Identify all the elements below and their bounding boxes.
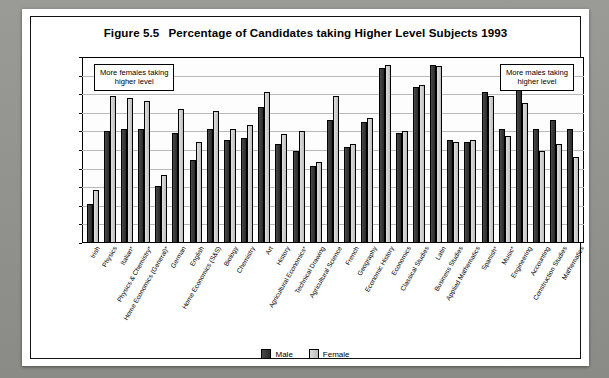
chart-legend: Male Female (22, 349, 589, 359)
bar-group (204, 57, 221, 243)
bar-group (462, 57, 479, 243)
bar-female (299, 131, 305, 243)
bar-female (247, 125, 253, 243)
bar-group (307, 57, 324, 243)
x-axis-tick-label: Italian* (119, 245, 135, 266)
bar-group (342, 57, 359, 243)
bar-female (110, 96, 116, 243)
bar-female (127, 98, 133, 243)
bar-group (324, 57, 341, 243)
legend-item-male: Male (261, 349, 292, 359)
x-axis-tick-label: English (188, 245, 205, 267)
bar-female (213, 111, 219, 243)
legend-label-female: Female (323, 350, 350, 359)
bar-female (573, 157, 579, 243)
legend-item-female: Female (309, 349, 350, 359)
x-axis-labels: IrishPhysicsItalian*Physics & Chemistry*… (82, 245, 584, 345)
bar-group (221, 57, 238, 243)
x-axis-tick-label: Latin (434, 245, 447, 261)
annotation-more-males: More males taking higher level (500, 64, 574, 91)
bar-female (161, 175, 167, 243)
figure-title-text: Percentage of Candidates taking Higher L… (168, 26, 507, 39)
bar-female (556, 144, 562, 243)
page-title: Figure 5.5Percentage of Candidates takin… (22, 26, 589, 39)
x-axis-tick-label: Music* (500, 245, 516, 266)
legend-swatch-male-icon (261, 349, 271, 359)
bar-female (385, 65, 391, 243)
bar-female (505, 136, 511, 243)
bar-female (350, 144, 356, 243)
bar-female (264, 92, 270, 243)
x-axis-tick-label: French (344, 245, 360, 266)
bar-female (488, 96, 494, 243)
x-axis-tick-label: Biology (222, 245, 239, 267)
x-axis-tick-label: Physics (101, 245, 118, 268)
bar-female (522, 103, 528, 243)
bar-female (539, 151, 545, 243)
bar-group (427, 57, 444, 243)
bar-group (239, 57, 256, 243)
x-axis-tick-label: Art (264, 245, 274, 256)
bar-female (419, 85, 425, 243)
bar-group (479, 57, 496, 243)
bar-group (256, 57, 273, 243)
bar-group (187, 57, 204, 243)
x-axis-tick-label: History (275, 245, 291, 266)
bar-female (470, 140, 476, 243)
bar-group (410, 57, 427, 243)
x-axis-tick-label: Irish (88, 245, 100, 259)
x-axis-tick-label: German (169, 245, 187, 269)
chart-plot-area: 100%90%80%70%60%50%40%30%20%10%0 More fe… (82, 57, 584, 243)
bar-group (445, 57, 462, 243)
y-axis-tick (79, 243, 82, 244)
x-axis-tick-label: Applied Mathematics (445, 245, 482, 302)
bar-female (333, 96, 339, 243)
bar-female (436, 66, 442, 243)
bar-female (453, 142, 459, 243)
bar-group (290, 57, 307, 243)
figure-card: Figure 5.5Percentage of Candidates takin… (22, 9, 589, 366)
x-axis-tick-label: Spanish* (480, 245, 499, 271)
bar-group (273, 57, 290, 243)
bar-group (359, 57, 376, 243)
bar-female (93, 190, 99, 243)
bar-group (376, 57, 393, 243)
bar-female (402, 131, 408, 243)
annotation-more-females: More females taking higher level (94, 64, 174, 91)
bar-female (196, 142, 202, 243)
bar-female (230, 129, 236, 243)
bar-female (281, 134, 287, 243)
bar-group (393, 57, 410, 243)
bar-female (316, 162, 322, 243)
figure-number: Figure 5.5 (104, 26, 160, 39)
screenshot-page: Figure 5.5Percentage of Candidates takin… (0, 0, 609, 378)
legend-swatch-female-icon (309, 349, 319, 359)
bar-female (178, 109, 184, 243)
legend-label-male: Male (275, 350, 292, 359)
x-axis-tick-label: Agricultural Science (308, 245, 343, 299)
x-axis-tick-label: Chemistry (236, 245, 257, 274)
bar-female (144, 101, 150, 243)
bar-female (367, 118, 373, 243)
